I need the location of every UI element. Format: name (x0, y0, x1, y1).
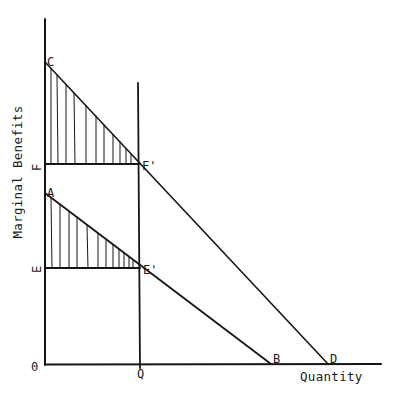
quantity-line (138, 83, 140, 368)
x-axis-title: Quantity (300, 369, 363, 384)
label-origin: 0 (31, 360, 38, 374)
label-d: D (330, 352, 337, 366)
label-q: Q (137, 367, 144, 381)
label-b: B (273, 352, 280, 366)
y-axis-title: Marginal Benefits (10, 105, 25, 238)
label-f-prime: F' (142, 159, 156, 173)
label-e-prime: E' (143, 263, 157, 277)
marginal-benefits-diagram: C A F E F' E' 0 Q B D Quantity Marginal … (0, 0, 397, 396)
lower-surplus-hatching (51, 198, 133, 268)
label-f: F (30, 164, 44, 171)
lower-marginal-benefit-curve (45, 193, 271, 364)
label-c: C (47, 55, 54, 69)
label-a: A (47, 186, 55, 200)
upper-marginal-benefit-curve (45, 62, 328, 364)
upper-surplus-hatching (51, 69, 131, 164)
label-e: E (30, 266, 44, 273)
